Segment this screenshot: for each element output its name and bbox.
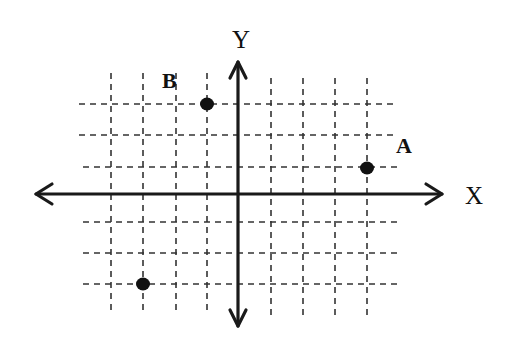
x-axis-label: X [465, 182, 483, 209]
point-a-label: A [396, 133, 412, 158]
y-axis-label: Y [232, 26, 250, 53]
axes [36, 62, 442, 326]
point-unlabeled [136, 278, 150, 291]
point-b-label: B [162, 68, 177, 93]
coordinate-plane: Y X B A [0, 0, 509, 342]
point-b [200, 98, 214, 111]
point-a [360, 162, 374, 175]
